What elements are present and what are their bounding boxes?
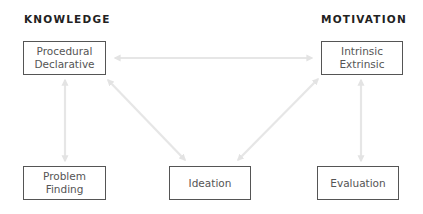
problem-finding-node: Problem Finding — [23, 166, 106, 200]
motivation-heading: MOTIVATION — [321, 13, 407, 25]
knowledge-node: Procedural Declarative — [23, 41, 106, 75]
evaluation-node: Evaluation — [317, 166, 399, 200]
node-label-line: Declarative — [34, 58, 94, 71]
arrow-motivation-ideation — [238, 79, 318, 160]
node-label-line: Procedural — [37, 45, 93, 58]
node-label-line: Extrinsic — [339, 58, 384, 71]
node-label-line: Evaluation — [330, 177, 385, 190]
node-label-line: Ideation — [189, 177, 232, 190]
arrow-knowledge-ideation — [108, 80, 185, 160]
motivation-node: Intrinsic Extrinsic — [321, 41, 403, 75]
ideation-node: Ideation — [169, 166, 251, 200]
knowledge-heading: KNOWLEDGE — [24, 13, 111, 25]
node-label-line: Intrinsic — [341, 45, 383, 58]
node-label-line: Finding — [46, 183, 84, 196]
node-label-line: Problem — [43, 170, 86, 183]
